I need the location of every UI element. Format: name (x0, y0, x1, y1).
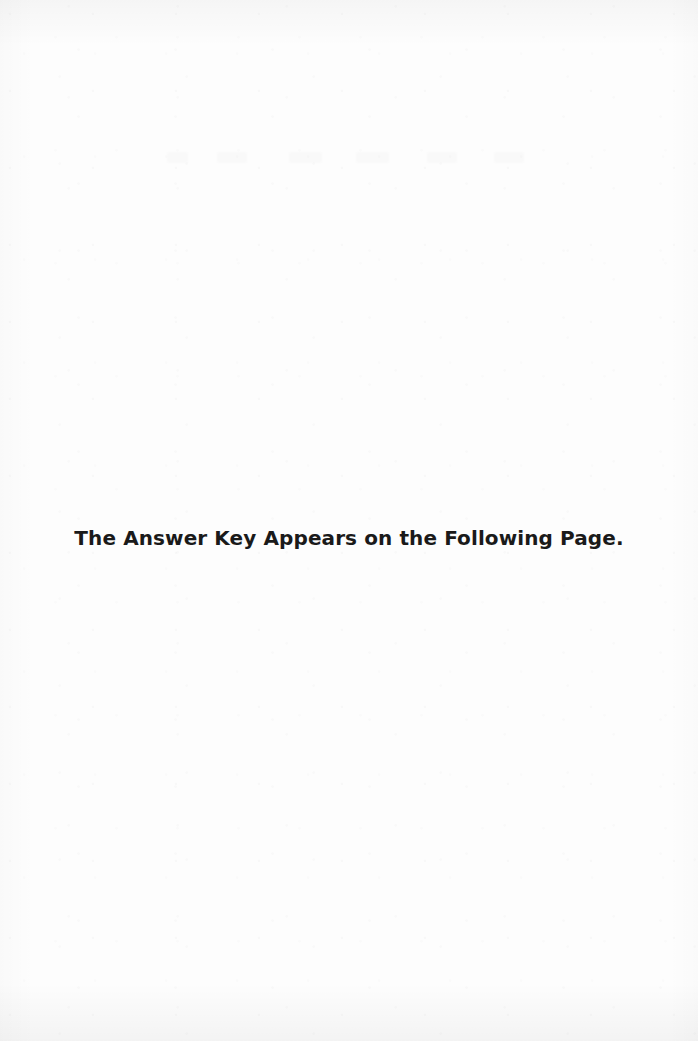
paper-grain-texture (0, 0, 698, 1041)
page-edge-shading-bottom (0, 983, 698, 1041)
page-edge-shading-top (0, 0, 698, 46)
page-edge-shading-left (0, 0, 34, 1041)
scanned-page: The Answer Key Appears on the Following … (0, 0, 698, 1041)
page-edge-shading-right (668, 0, 698, 1041)
answer-key-notice: The Answer Key Appears on the Following … (0, 527, 698, 549)
reverse-side-bleed-through (150, 150, 570, 184)
